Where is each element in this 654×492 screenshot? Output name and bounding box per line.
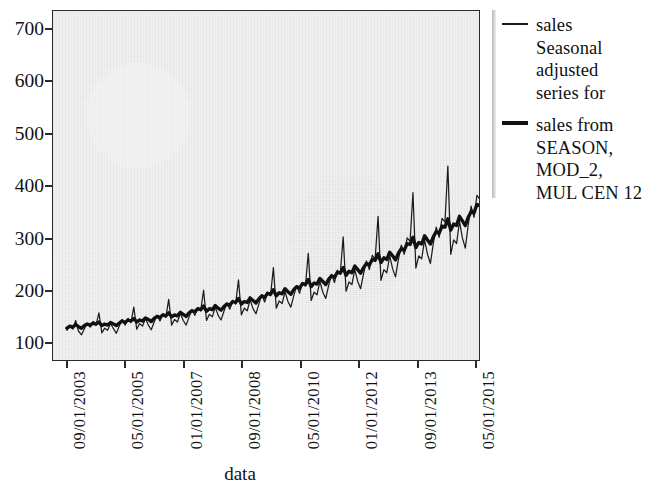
y-tick-label: 500 xyxy=(0,124,44,144)
legend-swatch-thick-line-icon xyxy=(502,121,528,125)
legend-divider xyxy=(492,10,496,198)
x-tick-label: 05/01/2010 xyxy=(306,371,323,449)
x-tick-mark xyxy=(475,361,477,368)
y-tick-mark xyxy=(45,238,52,240)
legend-label: sales Seasonal adjusted series for xyxy=(536,14,605,104)
x-tick-label: 09/01/2008 xyxy=(247,371,264,449)
y-tick-mark xyxy=(45,342,52,344)
legend-label: sales from SEASON, MOD_2, MUL CEN 12 xyxy=(536,114,642,204)
y-tick-mark xyxy=(45,290,52,292)
x-tick-label: 09/01/2013 xyxy=(423,371,440,449)
y-tick-mark xyxy=(45,80,52,82)
y-tick-label: 700 xyxy=(0,19,44,39)
x-tick-mark xyxy=(66,361,68,368)
x-tick-mark xyxy=(241,361,243,368)
x-axis-title: data xyxy=(0,464,480,483)
x-tick-mark xyxy=(358,361,360,368)
y-tick-mark xyxy=(45,185,52,187)
series-line-seasonally-adjusted xyxy=(67,135,479,328)
legend: sales Seasonal adjusted series for sales… xyxy=(492,6,654,206)
series-line-seasonal-raw xyxy=(67,75,479,335)
x-tick-mark xyxy=(300,361,302,368)
x-tick-mark xyxy=(124,361,126,368)
series-canvas xyxy=(53,11,479,360)
chart-figure: 700 600 500 400 300 200 100 09/01/2003 0… xyxy=(0,0,654,492)
legend-swatch-thin-line-icon xyxy=(502,23,528,25)
x-tick-label: 09/01/2003 xyxy=(72,371,89,449)
y-tick-label: 300 xyxy=(0,229,44,249)
x-tick-label: 05/01/2005 xyxy=(130,371,147,449)
y-tick-mark xyxy=(45,133,52,135)
x-tick-label: 05/01/2015 xyxy=(481,371,498,449)
y-tick-label: 200 xyxy=(0,281,44,301)
x-tick-mark xyxy=(417,361,419,368)
y-tick-label: 400 xyxy=(0,176,44,196)
x-tick-label: 01/01/2012 xyxy=(364,371,381,449)
plot-area xyxy=(52,10,480,361)
x-tick-label: 01/01/2007 xyxy=(189,371,206,449)
x-tick-mark xyxy=(183,361,185,368)
y-tick-label: 600 xyxy=(0,71,44,91)
y-tick-label: 100 xyxy=(0,333,44,353)
y-tick-mark xyxy=(45,28,52,30)
